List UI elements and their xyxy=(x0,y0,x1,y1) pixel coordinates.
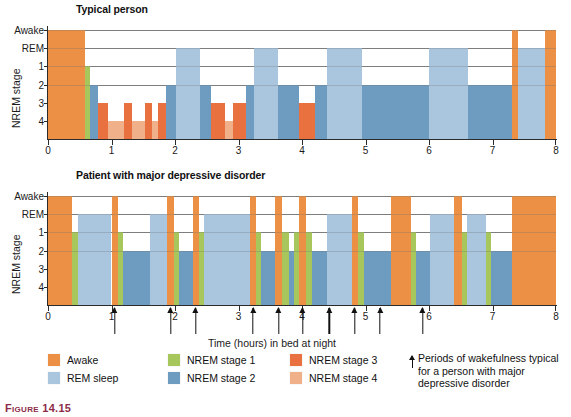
y-axis-tick-label: REM xyxy=(22,43,44,54)
wakefulness-arrow-icon xyxy=(354,308,355,334)
sleep-stage-segment xyxy=(200,85,210,139)
hypnogram-plot-mdd-patient xyxy=(48,192,556,305)
sleep-stage-segment xyxy=(233,103,246,139)
sleep-stage-segment xyxy=(364,251,391,305)
legend: Awake REM sleep NREM stage 1 NREM stage … xyxy=(0,352,571,400)
legend-swatch-awake xyxy=(48,354,60,366)
y-axis-line-bottom xyxy=(47,192,48,306)
wakefulness-arrow-icon xyxy=(278,308,279,334)
legend-column-1: Awake REM sleep xyxy=(48,352,118,388)
hypnogram-plot-typical-person xyxy=(48,26,556,139)
sleep-stage-segment xyxy=(378,85,429,139)
sleep-stage-segment xyxy=(278,85,300,139)
sleep-stage-segment xyxy=(176,48,200,139)
gridline-overlay xyxy=(48,66,556,67)
sleep-stage-segment xyxy=(123,251,150,305)
panel-title-typical-person: Typical person xyxy=(76,3,148,15)
x-axis-tick-label: 6 xyxy=(426,145,432,156)
x-axis-tick-label: 8 xyxy=(553,145,559,156)
sleep-stage-segment xyxy=(246,85,254,139)
gridline-overlay xyxy=(48,251,556,252)
sleep-stage-segment xyxy=(429,48,468,139)
y-axis-labels-bottom: AwakeREM1234 xyxy=(0,192,44,305)
y-axis-line-top xyxy=(47,26,48,140)
wakefulness-arrow-icon xyxy=(302,308,303,334)
sleep-stage-segment xyxy=(327,48,362,139)
y-axis-tick-label: Awake xyxy=(14,191,44,202)
sleep-stage-segment xyxy=(124,103,132,139)
legend-item-rem-sleep: REM sleep xyxy=(48,370,118,388)
sleep-stage-segment xyxy=(225,121,234,139)
y-axis-labels-top: AwakeREM1234 xyxy=(0,26,44,139)
legend-label-nrem-stage-3: NREM stage 3 xyxy=(309,352,377,368)
sleep-stage-segment xyxy=(430,214,454,305)
legend-note-row: Periods of wakefulness typical for a per… xyxy=(408,352,571,390)
y-axis-tick-label: Awake xyxy=(14,25,44,36)
gridline-overlay xyxy=(48,196,556,197)
sleep-stage-segment xyxy=(145,103,152,139)
x-axis-tick-label: 0 xyxy=(45,145,51,156)
sleep-stage-segment xyxy=(491,251,511,305)
legend-label-nrem-stage-4: NREM stage 4 xyxy=(309,370,377,386)
gridline-overlay xyxy=(48,232,556,233)
sleep-stage-segment xyxy=(90,85,98,139)
sleep-stage-segment xyxy=(204,214,250,305)
sleep-stage-segment xyxy=(467,214,486,305)
sleep-stage-segment xyxy=(299,103,314,139)
legend-label-awake: Awake xyxy=(67,352,98,368)
sleep-stage-segment xyxy=(254,48,278,139)
wakefulness-arrow-icon xyxy=(114,308,115,334)
sleep-stage-segment xyxy=(132,121,144,139)
legend-swatch-rem-sleep xyxy=(48,372,60,384)
sleep-stage-segment xyxy=(158,103,166,139)
sleep-stage-segment xyxy=(315,85,328,139)
x-axis-tick-label: 2 xyxy=(172,145,178,156)
sleep-stage-segment xyxy=(108,121,124,139)
legend-column-2: NREM stage 1 NREM stage 2 xyxy=(168,352,255,388)
sleep-stage-segment xyxy=(416,251,430,305)
sleep-stage-segment xyxy=(362,85,378,139)
figure-caption-label: Figure 14.15 xyxy=(5,402,71,414)
hypnogram-figure: Typical person NREM stage AwakeREM1234 0… xyxy=(0,0,571,417)
legend-item-nrem-stage-3: NREM stage 3 xyxy=(290,352,377,370)
legend-label-nrem-stage-1: NREM stage 1 xyxy=(187,352,255,368)
x-axis-tick-label: 7 xyxy=(490,145,496,156)
legend-item-nrem-stage-1: NREM stage 1 xyxy=(168,352,255,370)
wakefulness-arrow-icon xyxy=(195,308,196,334)
sleep-stage-segment xyxy=(166,85,176,139)
sleep-stage-segment xyxy=(211,103,225,139)
legend-item-nrem-stage-2: NREM stage 2 xyxy=(168,370,255,388)
up-arrow-icon xyxy=(408,354,418,370)
gridline-overlay xyxy=(48,48,556,49)
legend-swatch-nrem-stage-1 xyxy=(168,354,180,366)
x-axis-tick-label: 4 xyxy=(299,145,305,156)
sleep-stage-segment xyxy=(327,214,351,305)
legend-note: Periods of wakefulness typical for a per… xyxy=(408,352,571,390)
sleep-stage-segment xyxy=(152,121,159,139)
legend-item-nrem-stage-4: NREM stage 4 xyxy=(290,370,377,388)
gridline-overlay xyxy=(48,85,556,86)
sleep-stage-segment xyxy=(179,251,193,305)
gridline-overlay xyxy=(48,214,556,215)
legend-label-nrem-stage-2: NREM stage 2 xyxy=(187,370,255,386)
wakefulness-arrow-icon xyxy=(379,308,380,334)
legend-column-3: NREM stage 3 NREM stage 4 xyxy=(290,352,377,388)
wakefulness-arrow-markers xyxy=(48,306,556,340)
x-axis-title: Time (hours) in bed at night xyxy=(208,337,336,349)
sleep-stage-segment xyxy=(150,214,168,305)
sleep-stage-segment xyxy=(518,48,545,139)
sleep-stage-segment xyxy=(261,251,275,305)
x-axis-labels-top: 012345678 xyxy=(48,140,556,160)
sleep-stage-segment xyxy=(282,232,290,305)
x-axis-tick-label: 1 xyxy=(109,145,115,156)
legend-swatch-nrem-stage-3 xyxy=(290,354,302,366)
wakefulness-arrow-icon xyxy=(252,308,253,334)
wakefulness-arrow-icon xyxy=(329,308,330,334)
panel-title-mdd-patient: Patient with major depressive disorder xyxy=(76,169,265,181)
legend-item-awake: Awake xyxy=(48,352,118,370)
wakefulness-arrow-icon xyxy=(422,308,423,334)
sleep-stage-segment xyxy=(312,251,327,305)
wakefulness-arrow-icon xyxy=(170,308,171,334)
x-axis-tick-label: 5 xyxy=(363,145,369,156)
sleep-stage-segment xyxy=(78,214,111,305)
